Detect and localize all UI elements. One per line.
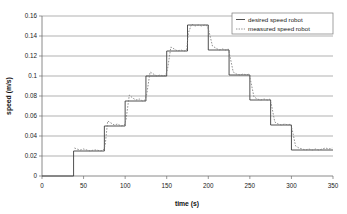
x-tick-label-200: 200 bbox=[203, 182, 214, 189]
y-tick-label-0.14: 0.14 bbox=[25, 32, 38, 39]
x-tick-label-250: 250 bbox=[245, 182, 256, 189]
x-tick-label-150: 150 bbox=[161, 182, 172, 189]
y-tick-label-0.02: 0.02 bbox=[25, 152, 38, 159]
x-tick-label-350: 350 bbox=[328, 182, 339, 189]
legend-label-desired: desired speed robot bbox=[248, 16, 303, 23]
x-tick-label-300: 300 bbox=[286, 182, 297, 189]
series-line-measured bbox=[74, 24, 332, 151]
legend-label-measured: measured speed robot bbox=[248, 25, 310, 32]
y-axis-title: speed (m/s) bbox=[5, 77, 13, 115]
y-tick-label-0: 0 bbox=[33, 172, 37, 179]
y-tick-label-0.16: 0.16 bbox=[25, 12, 38, 19]
series-line-desired bbox=[42, 25, 333, 176]
y-tick-label-0.08: 0.08 bbox=[25, 92, 38, 99]
data-series bbox=[42, 24, 333, 176]
x-axis-title: time (s) bbox=[175, 200, 199, 208]
x-tick-label-50: 50 bbox=[80, 182, 88, 189]
x-tick-label-100: 100 bbox=[120, 182, 131, 189]
y-tick-label-0.12: 0.12 bbox=[25, 52, 38, 59]
y-tick-label-0.06: 0.06 bbox=[25, 112, 38, 119]
x-axis-tick-labels: 050100150200250300350 bbox=[40, 182, 339, 189]
chart-figure: 00.020.040.060.080.10.120.140.16 0501001… bbox=[0, 0, 347, 214]
y-tick-label-0.1: 0.1 bbox=[28, 72, 37, 79]
y-tick-label-0.04: 0.04 bbox=[25, 132, 38, 139]
x-tick-label-0: 0 bbox=[40, 182, 44, 189]
speed-vs-time-chart: 00.020.040.060.080.10.120.140.16 0501001… bbox=[0, 0, 347, 214]
y-axis-tick-labels: 00.020.040.060.080.10.120.140.16 bbox=[25, 12, 38, 179]
chart-legend: desired speed robotmeasured speed robot bbox=[232, 13, 333, 34]
tick-marks bbox=[39, 16, 333, 179]
